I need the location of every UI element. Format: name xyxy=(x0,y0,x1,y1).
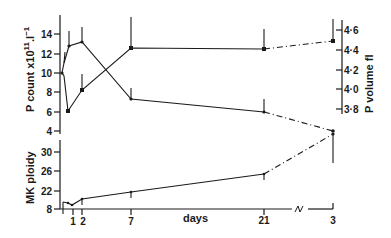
p-volume-tick-labels: 4·6 4·4 4·2 4·0 3·8 xyxy=(344,25,359,115)
svg-text:P volume fl: P volume fl xyxy=(363,55,375,113)
mk-ploidy-axis-label: MK ploidy xyxy=(24,151,36,204)
x-axis-break-icon xyxy=(295,206,303,212)
p-count-axis xyxy=(54,15,60,134)
svg-text:22: 22 xyxy=(41,186,53,197)
p-volume-markers xyxy=(60,40,334,132)
chart: 14 12 10 8 6 4 P count x1011.l−1 4·6 4·4… xyxy=(0,0,391,238)
svg-text:4·2: 4·2 xyxy=(344,65,359,76)
svg-text:P count x1011.l−1: P count x1011.l−1 xyxy=(22,26,36,112)
svg-text:4·0: 4·0 xyxy=(344,84,359,95)
svg-text:6: 6 xyxy=(46,107,52,118)
p-count-series xyxy=(62,17,333,111)
svg-text:12: 12 xyxy=(41,49,53,60)
svg-text:4: 4 xyxy=(46,126,52,137)
svg-text:1: 1 xyxy=(70,216,76,227)
svg-text:10: 10 xyxy=(41,68,53,79)
svg-text:30: 30 xyxy=(41,147,53,158)
mk-ploidy-series xyxy=(63,134,333,214)
svg-text:26: 26 xyxy=(41,166,53,177)
svg-text:2: 2 xyxy=(80,216,86,227)
svg-text:8: 8 xyxy=(46,87,52,98)
p-count-markers xyxy=(66,39,335,113)
svg-text:21: 21 xyxy=(258,215,270,226)
svg-text:4·4: 4·4 xyxy=(344,45,359,56)
p-volume-axis xyxy=(336,20,342,114)
p-volume-axis-label: P volume fl xyxy=(363,55,375,113)
p-count-axis-label: P count x1011.l−1 xyxy=(22,26,36,112)
x-axis-label: days xyxy=(183,212,208,224)
svg-text:7: 7 xyxy=(128,216,134,227)
svg-text:MK ploidy: MK ploidy xyxy=(24,151,36,204)
mk-ploidy-axis xyxy=(54,140,60,209)
svg-text:4·6: 4·6 xyxy=(344,25,359,36)
svg-text:3·8: 3·8 xyxy=(344,104,359,115)
p-count-tick-labels: 14 12 10 8 6 4 xyxy=(41,29,53,137)
svg-text:8: 8 xyxy=(46,204,52,215)
svg-text:14: 14 xyxy=(41,29,53,40)
p-volume-series xyxy=(62,27,333,131)
mk-ploidy-tick-labels: 30 26 22 8 xyxy=(41,147,53,215)
svg-text:3: 3 xyxy=(330,215,336,226)
